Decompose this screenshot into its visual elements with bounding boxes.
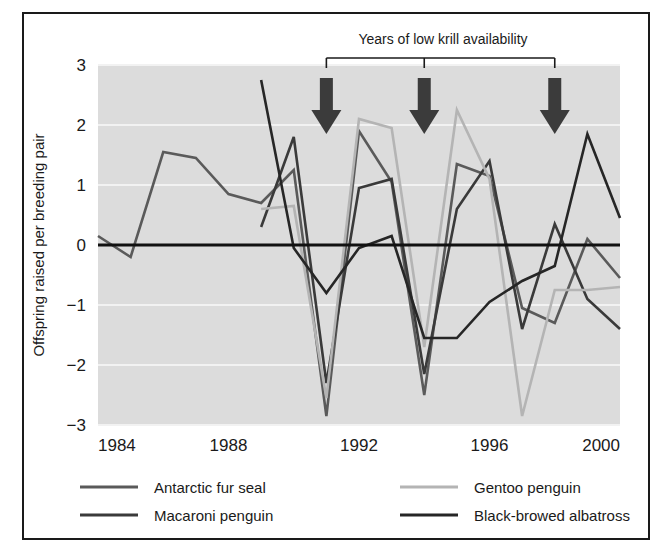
- figure-panel: 3210−1−2−3 19841988199219962000 Offsprin…: [0, 0, 658, 552]
- x-tick-label: 1996: [471, 436, 509, 455]
- krill-bracket-label: Years of low krill availability: [358, 31, 527, 47]
- x-tick-label: 2000: [582, 436, 620, 455]
- y-tick-label: −3: [67, 416, 86, 435]
- y-tick-label: 0: [77, 236, 86, 255]
- y-tick-label: 2: [77, 116, 86, 135]
- x-tick-label: 1984: [98, 436, 136, 455]
- y-tick-label: 3: [77, 56, 86, 75]
- x-tick-label: 1988: [210, 436, 248, 455]
- chart-legend: Antarctic fur sealGentoo penguinMacaroni…: [80, 479, 630, 524]
- chart-canvas: 3210−1−2−3 19841988199219962000 Offsprin…: [0, 0, 658, 552]
- y-tick-label: −2: [67, 356, 86, 375]
- legend-label: Black-browed albatross: [474, 507, 630, 524]
- y-axis-title: Offspring raised per breeding pair: [30, 133, 47, 356]
- y-tick-labels: 3210−1−2−3: [67, 56, 86, 435]
- x-tick-label: 1992: [340, 436, 378, 455]
- x-tick-labels: 19841988199219962000: [98, 436, 620, 455]
- legend-label: Macaroni penguin: [154, 507, 273, 524]
- legend-label: Gentoo penguin: [474, 479, 581, 496]
- y-tick-label: −1: [67, 296, 86, 315]
- y-tick-label: 1: [77, 176, 86, 195]
- legend-label: Antarctic fur seal: [154, 479, 266, 496]
